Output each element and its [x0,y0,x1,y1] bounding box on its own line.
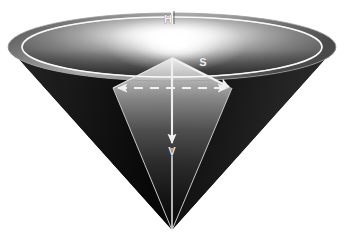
cone-diagram: V S H [0,0,347,242]
figure-root: V S H [0,0,347,242]
apex-point [171,229,173,231]
specular-core [144,27,204,57]
rim-diameter-marker: H [164,11,174,25]
cone-apex [171,229,173,231]
rim-diameter-label: H [164,13,172,25]
axis-arrow-label: V [168,145,176,157]
slant-arrow-label: S [199,56,206,68]
